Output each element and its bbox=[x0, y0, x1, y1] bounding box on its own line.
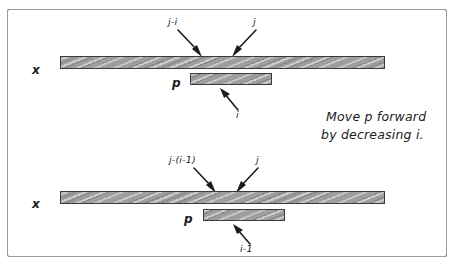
note-line-2: by decreasing i. bbox=[321, 126, 424, 143]
top-array-label: x bbox=[32, 63, 40, 77]
top-pattern-label: p bbox=[172, 76, 181, 90]
top-pattern-bar bbox=[190, 73, 272, 85]
bottom-array-bar bbox=[60, 191, 385, 204]
bottom-left-index-label: j-(i-1) bbox=[169, 154, 196, 165]
bottom-offset-label: i-1 bbox=[240, 243, 253, 254]
bottom-array-label: x bbox=[32, 197, 40, 211]
top-offset-arrow bbox=[218, 88, 244, 112]
top-right-index-label: j bbox=[253, 16, 256, 27]
bottom-pattern-label: p bbox=[184, 212, 193, 226]
note-line-1: Move p forward bbox=[326, 108, 426, 125]
bottom-pattern-bar bbox=[203, 209, 285, 221]
bottom-right-index-label: j bbox=[256, 154, 259, 165]
top-array-bar bbox=[60, 56, 385, 69]
diagram-canvas: j-i j x p i Move p forward by decreasing… bbox=[0, 0, 458, 266]
top-left-index-label: j-i bbox=[168, 16, 177, 27]
top-offset-label: i bbox=[236, 109, 239, 120]
